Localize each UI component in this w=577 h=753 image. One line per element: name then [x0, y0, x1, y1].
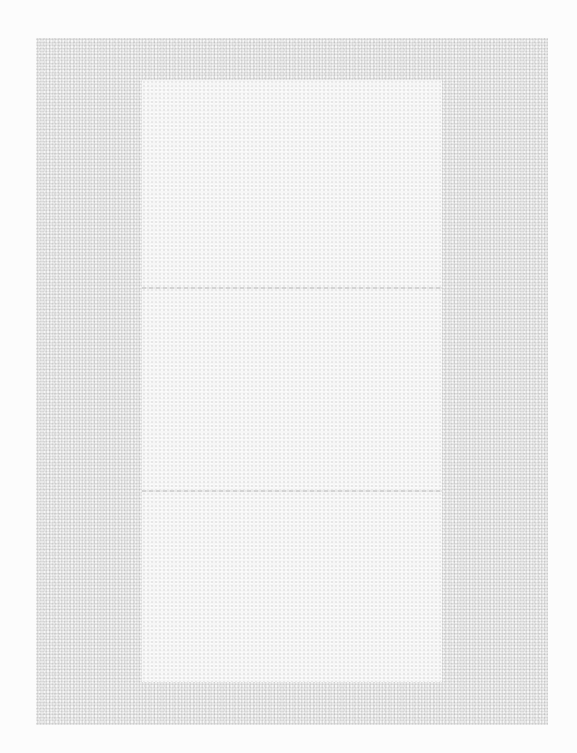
panel-label	[240, 140, 260, 150]
center-panel	[142, 80, 442, 682]
section-divider-1	[142, 287, 442, 289]
page-canvas	[0, 0, 577, 753]
section-divider-2	[142, 490, 442, 492]
